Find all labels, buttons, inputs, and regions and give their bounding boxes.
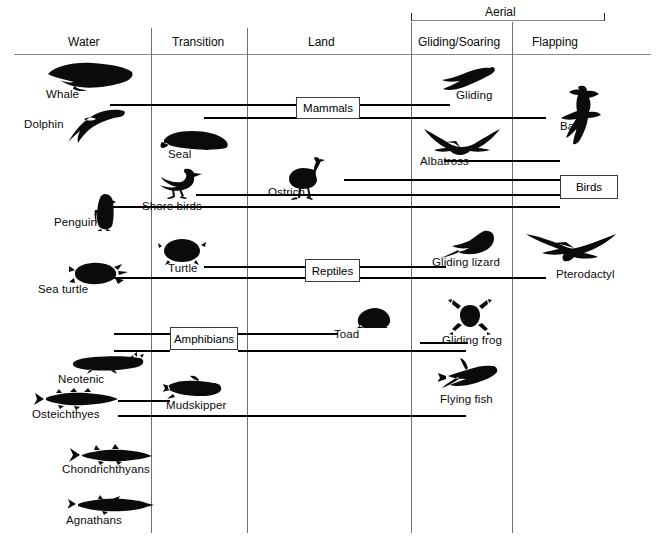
- vertebrate-locomotion-diagram: Aerial Water Transition Land Gliding/Soa…: [0, 0, 657, 548]
- bony-fish-silhouette: [34, 387, 122, 411]
- group-box-reptiles[interactable]: Reptiles: [305, 259, 360, 282]
- organism-label-dolphin: Dolphin: [24, 118, 64, 130]
- pterodactyl-silhouette: [524, 228, 618, 270]
- connector-birds-transition: [196, 194, 560, 196]
- connector-mammals-aquatic: [110, 104, 296, 106]
- header-underline: [14, 54, 651, 55]
- albatross-silhouette: [422, 125, 502, 159]
- aerial-group-label: Aerial: [485, 5, 516, 19]
- stub-flying-fish: [420, 415, 466, 417]
- connector-osteichthyes-flying-fish: [118, 415, 466, 417]
- bat-silhouette: [556, 84, 602, 146]
- mudskipper-silhouette: [163, 375, 223, 401]
- flying-fish-silhouette: [438, 358, 500, 394]
- flying-squirrel-silhouette: [440, 64, 496, 94]
- seal-silhouette: [160, 126, 230, 152]
- gliding-frog-silhouette: [448, 297, 492, 337]
- column-header-water: Water: [68, 35, 100, 49]
- organism-label-flying-fish: Flying fish: [440, 393, 493, 405]
- connector-reptiles-transition: [204, 266, 305, 268]
- shark-silhouette: [68, 444, 154, 466]
- lamprey-silhouette: [68, 494, 156, 516]
- connector-mammals-transition: [204, 117, 296, 119]
- connector-amphibians-gliding-frog: [238, 350, 466, 352]
- organism-label-shore-birds: Shore birds: [142, 200, 202, 212]
- toad-silhouette: [355, 305, 393, 331]
- connector-birds-land: [344, 179, 560, 181]
- column-header-flapping: Flapping: [532, 35, 578, 49]
- group-box-birds[interactable]: Birds: [560, 175, 618, 199]
- connector-reptiles-water: [100, 277, 305, 279]
- penguin-silhouette: [93, 192, 117, 232]
- column-header-land: Land: [308, 35, 335, 49]
- connector-reptiles-pterodactyl: [360, 277, 546, 279]
- turtle-silhouette: [158, 236, 206, 266]
- ostrich-silhouette: [285, 155, 337, 201]
- connector-amphibians-neotenic: [114, 333, 170, 335]
- column-header-transition: Transition: [172, 35, 224, 49]
- aerial-bracket-right-tick: [604, 13, 605, 21]
- connector-amphibians-toad: [238, 333, 338, 335]
- sea-turtle-silhouette: [68, 258, 130, 288]
- neotenic-salamander-silhouette: [70, 352, 144, 376]
- aerial-bracket-left-tick: [411, 13, 412, 21]
- group-box-mammals[interactable]: Mammals: [296, 97, 360, 119]
- aerial-bracket-bar: [411, 20, 605, 21]
- whale-silhouette: [46, 60, 134, 92]
- shorebird-silhouette: [155, 165, 203, 201]
- column-header-gliding-soaring: Gliding/Soaring: [418, 35, 500, 49]
- connector-mammals-flapping: [360, 117, 546, 119]
- organism-label-penguin: Penguin: [54, 216, 97, 228]
- gliding-lizard-silhouette: [440, 228, 496, 260]
- group-box-amphibians[interactable]: Amphibians: [170, 327, 238, 350]
- connector-mammals-gliding: [360, 104, 450, 106]
- dolphin-silhouette: [62, 105, 126, 145]
